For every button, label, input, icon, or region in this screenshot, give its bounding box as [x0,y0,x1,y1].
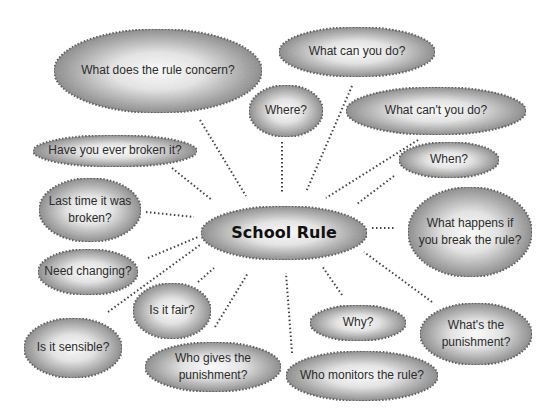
node-label: you break the rule? [419,233,522,247]
node-label: What can't you do? [385,103,488,117]
center-node: School Rule [201,206,367,260]
node-label: What happens if [427,216,514,230]
node-label: punishment? [179,368,248,382]
connector-have-you-ever-broken-it [172,168,212,200]
connector-need-changing [148,237,198,258]
node-whats-the-punishment: What's thepunishment? [420,303,532,365]
connector-who-gives-the-punishment [215,273,248,327]
node-where: Where? [249,85,323,137]
node-who-gives-the-punishment: Who gives thepunishment? [145,342,281,392]
node-label: Who gives the [175,351,251,365]
node-need-changing: Need changing? [38,249,138,295]
node-label: punishment? [442,335,511,349]
node-what-does-the-rule-concern: What does the rule concern? [54,29,262,113]
node-who-monitors-the-rule: Who monitors the rule? [286,351,438,401]
node-label: broken? [68,211,112,225]
node-label: Where? [265,103,307,117]
node-when: When? [399,142,499,178]
node-why: Why? [310,305,406,341]
node-last-time-it-was-broken: Last time it wasbroken? [39,178,141,242]
mind-map-canvas: What does the rule concern?Where?What ca… [0,0,560,413]
node-label: What can you do? [309,44,406,58]
nodes: What does the rule concern?Where?What ca… [24,27,532,401]
node-label: Need changing? [44,264,132,278]
node-is-it-sensible: Is it sensible? [24,318,122,378]
node-label: Is it fair? [149,303,195,317]
node-label: When? [430,152,468,166]
connector-when [357,176,394,204]
node-label: Who monitors the rule? [300,368,424,382]
connector-last-time-it-was-broken [146,212,194,217]
node-label: What does the rule concern? [81,63,235,77]
node-label: What's the [448,318,505,332]
center-label: School Rule [231,223,337,242]
node-label: Last time it was [49,194,132,208]
connector-who-monitors-the-rule [286,273,292,353]
node-label: Is it sensible? [37,340,110,354]
node-what-cant-you-do: What can't you do? [346,87,526,135]
node-label: Why? [343,315,374,329]
connector-what-cant-you-do [326,140,418,198]
node-what-happens-if-you-break-the-rule: What happens ifyou break the rule? [408,187,532,277]
node-what-can-you-do: What can you do? [279,27,435,77]
connector-why [322,266,342,295]
node-label: Have you ever broken it? [48,143,182,157]
node-is-it-fair: Is it fair? [133,283,211,339]
connector-what-does-the-rule-concern [200,120,246,196]
connector-is-it-fair [198,268,214,282]
node-have-you-ever-broken-it: Have you ever broken it? [33,135,197,167]
